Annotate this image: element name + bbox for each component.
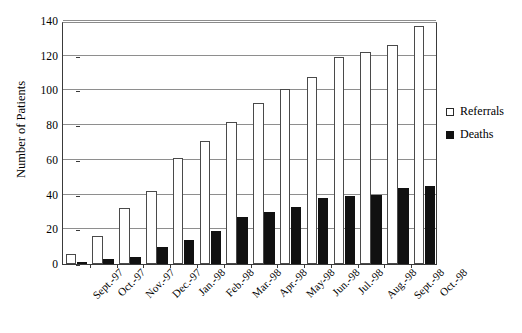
bar-deaths <box>398 188 409 264</box>
y-axis-tick-labels: 020406080100120140 <box>18 22 58 265</box>
x-axis-tick-label: May-98 <box>303 266 337 300</box>
bar-referrals <box>146 191 157 264</box>
bar-referrals <box>119 208 130 264</box>
bar-deaths <box>157 247 168 264</box>
filled-square-icon <box>446 131 454 139</box>
plot-area <box>62 22 437 265</box>
bar-deaths <box>103 259 114 264</box>
bar-group <box>414 23 436 264</box>
bar-deaths <box>425 186 436 264</box>
bar-deaths <box>77 262 88 264</box>
bar-deaths <box>264 212 275 264</box>
x-axis-tick-label: Sept.-98 <box>411 266 446 301</box>
bar-deaths <box>184 240 195 264</box>
bar-deaths <box>291 207 302 264</box>
bar-referrals <box>66 254 77 264</box>
y-axis-tick-label: 120 <box>24 51 58 63</box>
legend-item: Referrals <box>446 100 520 123</box>
bar-referrals <box>92 236 103 264</box>
y-axis-tick-label: 0 <box>24 259 58 271</box>
legend-label: Deaths <box>460 127 493 142</box>
chart-legend: ReferralsDeaths <box>446 100 520 146</box>
bar-deaths <box>130 257 141 264</box>
legend-item: Deaths <box>446 123 520 146</box>
bar-referrals <box>173 158 184 264</box>
bar-referrals <box>360 52 371 264</box>
open-square-icon <box>446 108 454 116</box>
bar-deaths <box>345 196 356 264</box>
bar-group <box>200 23 222 264</box>
bar-deaths <box>211 231 222 264</box>
x-axis-tick-label: Feb.-98 <box>223 266 256 299</box>
bar-referrals <box>226 122 237 264</box>
bar-group <box>119 23 141 264</box>
y-axis-tick-label: 40 <box>24 190 58 202</box>
bar-referrals <box>307 77 318 264</box>
bar-group <box>92 23 114 264</box>
x-axis-tick-label: Dec.-97 <box>169 266 203 300</box>
x-axis-tick-label: Nov.-97 <box>143 266 177 300</box>
bar-referrals <box>280 89 291 264</box>
x-axis-tick-label: Apr.-98 <box>276 266 309 299</box>
bar-group <box>307 23 329 264</box>
x-axis-tick-labels: Sept.-97Oct.-97Nov.-97Dec.-97Jan.-98Feb.… <box>62 266 437 333</box>
bar-group <box>253 23 275 264</box>
bar-group <box>334 23 356 264</box>
bar-group <box>146 23 168 264</box>
bar-group <box>387 23 409 264</box>
gridline <box>63 20 436 21</box>
legend-label: Referrals <box>460 104 504 119</box>
bar-group <box>173 23 195 264</box>
bar-referrals <box>334 57 345 264</box>
bar-deaths <box>237 217 248 264</box>
y-axis-tick-label: 20 <box>24 224 58 236</box>
y-axis-tick-label: 60 <box>24 155 58 167</box>
y-axis-tick-label: 140 <box>24 16 58 28</box>
bar-referrals <box>387 45 398 264</box>
bar-group <box>280 23 302 264</box>
bar-group <box>360 23 382 264</box>
x-axis-tick-label: Mar.-98 <box>250 266 284 300</box>
y-axis-tick-label: 80 <box>24 120 58 132</box>
bar-chart: Number of Patients 020406080100120140 Se… <box>0 0 522 333</box>
x-axis-tick-label: Jul.-98 <box>356 266 386 296</box>
y-axis-tick-label: 100 <box>24 85 58 97</box>
bar-group <box>66 23 88 264</box>
bar-group <box>226 23 248 264</box>
bar-referrals <box>253 103 264 264</box>
bar-deaths <box>371 195 382 264</box>
bar-referrals <box>414 26 425 264</box>
bar-deaths <box>318 198 329 264</box>
x-axis-tick-label: Jun.-98 <box>329 266 361 298</box>
bar-referrals <box>200 141 211 264</box>
